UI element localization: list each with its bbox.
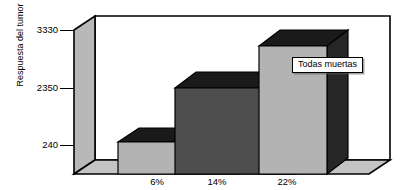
x-category-label-6pct: 6% <box>132 176 182 187</box>
bar-chart-figure: Respuesta del tumor 3330 2350 240 Todas … <box>0 0 405 190</box>
annotation-callout-todas-muertas: Todas muertas <box>292 57 363 73</box>
plot-area <box>0 0 405 190</box>
x-category-label-22pct: 22% <box>262 176 312 187</box>
plot-left-wall <box>74 16 95 174</box>
x-category-label-14pct: 14% <box>192 176 242 187</box>
bar-22pct-side-face <box>327 30 348 174</box>
